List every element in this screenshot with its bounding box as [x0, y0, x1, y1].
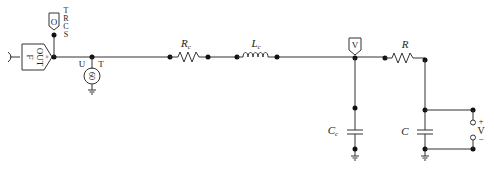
ac-source-label-t: T — [98, 59, 104, 69]
probe-trcs[interactable]: O T R C S — [49, 6, 69, 57]
source-block[interactable]: F OUT ≡ — [8, 44, 52, 70]
load-resistor-label: R — [401, 38, 409, 50]
voltmeter-minus-sign: − — [478, 134, 483, 144]
shunt-capacitor[interactable]: Cc — [328, 58, 363, 160]
probe-trcs-node — [52, 33, 57, 38]
ac-source-symbol: 60 — [87, 72, 96, 80]
ground-icon — [351, 156, 359, 160]
load-capacitor-label: C — [401, 125, 409, 137]
series-resistor-zigzag — [170, 52, 208, 62]
shunt-capacitor-node-bottom — [353, 147, 358, 152]
series-resistor-label: Rc — [180, 37, 192, 51]
shunt-capacitor-node-top — [353, 106, 358, 111]
circuit-schematic: F OUT ≡ O T R C S 60 U T Rc — [0, 0, 494, 172]
series-inductor-node-right — [275, 55, 280, 60]
load-resistor[interactable]: R — [383, 38, 428, 63]
series-inductor-label: Lc — [250, 37, 261, 51]
source-label-top: F — [25, 54, 35, 59]
ground-icon — [421, 156, 429, 160]
ground-icon — [88, 90, 96, 94]
source-label-main: OUT — [35, 48, 45, 67]
probe-trcs-symbol: O — [51, 17, 58, 27]
probe-trcs-letter-s: S — [64, 30, 68, 39]
voltmeter-terminal-plus[interactable] — [471, 120, 476, 125]
ac-source-label-u: U — [79, 59, 86, 69]
source-input-arc — [8, 52, 11, 62]
load-resistor-zigzag — [385, 53, 425, 63]
series-inductor[interactable]: Lc — [235, 37, 280, 60]
shunt-capacitor-label: Cc — [328, 124, 339, 138]
series-inductor-coil — [237, 53, 277, 58]
voltmeter-terminal-minus[interactable] — [471, 135, 476, 140]
series-resistor[interactable]: Rc — [168, 37, 211, 62]
ac-source[interactable]: 60 U T — [79, 55, 105, 95]
voltage-probe[interactable]: V — [349, 38, 361, 55]
series-resistor-node-right — [206, 55, 211, 60]
voltmeter[interactable]: + V − — [425, 108, 485, 152]
voltage-probe-symbol: V — [352, 40, 359, 50]
